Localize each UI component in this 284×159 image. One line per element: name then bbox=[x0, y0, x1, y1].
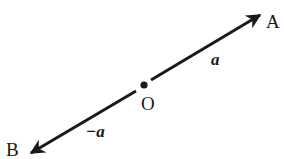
vector-label-neg-a: −a bbox=[86, 123, 105, 140]
point-label-a: A bbox=[266, 12, 280, 31]
vector-diagram: A O B a −a bbox=[0, 0, 284, 159]
vector-a-arrow bbox=[151, 15, 260, 80]
point-label-o: O bbox=[141, 94, 155, 113]
origin-point bbox=[140, 81, 147, 88]
diagram-graphics bbox=[0, 0, 284, 159]
vector-label-a: a bbox=[211, 51, 220, 68]
vector-neg-a-arrow bbox=[31, 91, 136, 153]
point-label-b: B bbox=[6, 140, 19, 159]
